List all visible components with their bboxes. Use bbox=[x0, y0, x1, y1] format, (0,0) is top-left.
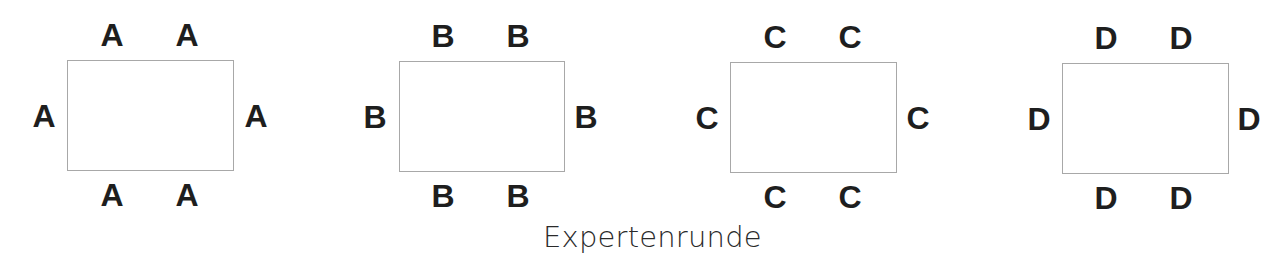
seat-label-d-bottom: D bbox=[1086, 182, 1126, 214]
seat-label-a-top: A bbox=[167, 19, 207, 51]
seat-label-c-bottom: C bbox=[830, 181, 870, 213]
seat-label-d-right: D bbox=[1229, 103, 1269, 135]
seat-label-b-bottom: B bbox=[498, 180, 538, 212]
seat-label-c-top: C bbox=[830, 21, 870, 53]
seat-label-b-bottom: B bbox=[423, 180, 463, 212]
seat-label-d-top: D bbox=[1086, 22, 1126, 54]
seat-label-a-bottom: A bbox=[167, 179, 207, 211]
table-b bbox=[399, 61, 565, 172]
seat-label-c-left: C bbox=[687, 102, 727, 134]
seat-label-a-bottom: A bbox=[92, 179, 132, 211]
seat-label-b-top: B bbox=[423, 20, 463, 52]
table-a bbox=[67, 60, 234, 171]
seat-label-c-top: C bbox=[755, 21, 795, 53]
seat-label-b-right: B bbox=[566, 101, 606, 133]
seat-label-c-right: C bbox=[898, 102, 938, 134]
seat-label-a-right: A bbox=[236, 100, 276, 132]
table-c bbox=[730, 62, 897, 173]
seat-label-d-left: D bbox=[1019, 103, 1059, 135]
table-d bbox=[1062, 63, 1229, 174]
seat-label-d-bottom: D bbox=[1161, 182, 1201, 214]
seat-label-a-top: A bbox=[92, 19, 132, 51]
diagram-caption: Expertenrunde bbox=[543, 220, 762, 254]
seat-label-b-left: B bbox=[355, 101, 395, 133]
seat-label-c-bottom: C bbox=[755, 181, 795, 213]
seat-label-d-top: D bbox=[1161, 22, 1201, 54]
seat-label-a-left: A bbox=[24, 100, 64, 132]
seat-label-b-top: B bbox=[498, 20, 538, 52]
